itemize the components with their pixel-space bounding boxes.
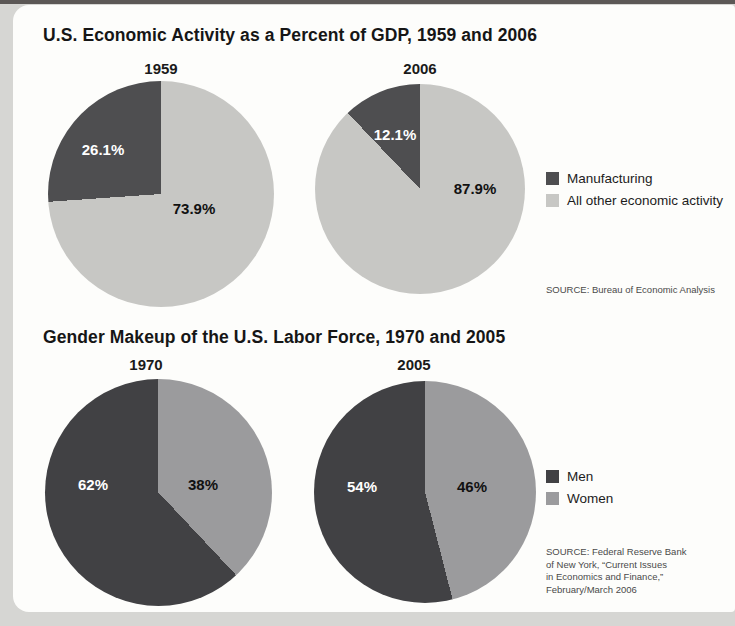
men-swatch-icon bbox=[546, 470, 559, 483]
slice-label-manufacturing-2006: 12.1% bbox=[374, 126, 417, 143]
other-activity-swatch-icon bbox=[546, 194, 559, 207]
legend-label-women: Women bbox=[567, 491, 613, 506]
source-line: of New York, “Current Issues bbox=[546, 559, 686, 572]
page-top-edge bbox=[0, 0, 735, 4]
source-line: February/March 2006 bbox=[546, 584, 686, 597]
pie-year-label-2006: 2006 bbox=[315, 60, 525, 77]
legend-label-men: Men bbox=[567, 469, 593, 484]
gdp-source-note: SOURCE: Bureau of Economic Analysis bbox=[546, 284, 715, 297]
legend-row-other-activity: All other economic activity bbox=[546, 193, 723, 208]
pie-year-label-2005: 2005 bbox=[303, 356, 525, 373]
gender-chart-title: Gender Makeup of the U.S. Labor Force, 1… bbox=[43, 327, 505, 348]
source-line: in Economics and Finance,” bbox=[546, 571, 686, 584]
legend-row-women: Women bbox=[546, 491, 613, 506]
gdp-legend: Manufacturing All other economic activit… bbox=[546, 171, 723, 215]
pie-year-label-1959: 1959 bbox=[48, 60, 274, 77]
slice-label-men-1970: 62% bbox=[78, 476, 108, 493]
source-line: SOURCE: Federal Reserve Bank bbox=[546, 546, 686, 559]
legend-label-manufacturing: Manufacturing bbox=[567, 171, 653, 186]
pie-chart-1959: 26.1% 73.9% bbox=[48, 81, 274, 307]
gdp-chart-title: U.S. Economic Activity as a Percent of G… bbox=[43, 25, 537, 46]
legend-row-manufacturing: Manufacturing bbox=[546, 171, 723, 186]
manufacturing-swatch-icon bbox=[546, 172, 559, 185]
pie-chart-2005: 54% 46% bbox=[314, 381, 536, 603]
slice-label-women-2005: 46% bbox=[457, 478, 487, 495]
women-swatch-icon bbox=[546, 492, 559, 505]
figure-page: U.S. Economic Activity as a Percent of G… bbox=[0, 0, 735, 626]
slice-label-men-2005: 54% bbox=[347, 478, 377, 495]
legend-row-men: Men bbox=[546, 469, 613, 484]
legend-label-other-activity: All other economic activity bbox=[567, 193, 723, 208]
gender-source-note: SOURCE: Federal Reserve Bank of New York… bbox=[546, 546, 686, 596]
slice-label-other-2006: 87.9% bbox=[454, 180, 497, 197]
gender-legend: Men Women bbox=[546, 469, 613, 513]
figure-card: U.S. Economic Activity as a Percent of G… bbox=[13, 5, 735, 612]
pie-chart-2006: 12.1% 87.9% bbox=[315, 84, 525, 294]
slice-label-other-1959: 73.9% bbox=[173, 200, 216, 217]
source-line: SOURCE: Bureau of Economic Analysis bbox=[546, 284, 715, 297]
slice-label-manufacturing-1959: 26.1% bbox=[82, 141, 125, 158]
pie-year-label-1970: 1970 bbox=[33, 356, 259, 373]
slice-label-women-1970: 38% bbox=[188, 476, 218, 493]
pie-chart-1970: 62% 38% bbox=[45, 379, 272, 606]
